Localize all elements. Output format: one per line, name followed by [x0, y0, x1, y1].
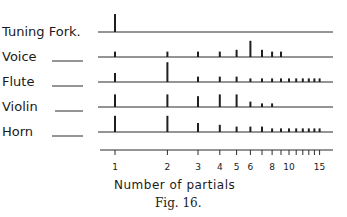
partial-bar — [166, 52, 168, 57]
x-tick-label: 2 — [165, 162, 171, 172]
x-axis-ticks — [115, 150, 320, 155]
partial-bar — [302, 78, 304, 82]
bars-flute — [114, 62, 321, 82]
partial-bar — [271, 103, 273, 107]
partial-bar — [308, 78, 310, 82]
partial-bar — [319, 78, 321, 82]
bars-horn — [114, 116, 321, 132]
row-label-voice: Voice — [2, 49, 37, 64]
row-label-violin: Violin — [2, 99, 38, 114]
partial-bar — [271, 52, 273, 57]
partial-bar — [280, 128, 282, 132]
bars-voice — [114, 41, 282, 57]
partials-diagram: Tuning Fork. Voice Flute Violin Horn 123… — [0, 0, 347, 217]
partial-bar — [197, 96, 199, 107]
row-baselines — [98, 32, 333, 132]
partial-bar — [197, 123, 199, 132]
partial-bar — [114, 116, 116, 132]
x-tick-label: 15 — [314, 162, 325, 172]
partial-bar — [166, 116, 168, 132]
partial-bar — [302, 128, 304, 132]
partial-bar — [166, 62, 168, 82]
partial-bar — [261, 78, 263, 82]
partial-bar — [249, 127, 251, 132]
partial-bar — [219, 77, 221, 82]
partial-bar — [249, 102, 251, 107]
partial-bar — [236, 50, 238, 57]
row-label-horn: Horn — [2, 124, 33, 139]
partial-bar — [249, 78, 251, 82]
partial-bar — [114, 94, 116, 107]
partial-bar — [261, 50, 263, 57]
partial-bar — [261, 127, 263, 132]
bars-violin — [114, 94, 273, 107]
partial-bar — [114, 52, 116, 57]
partial-bar — [271, 78, 273, 82]
partial-bar — [288, 128, 290, 132]
partial-bar — [271, 128, 273, 132]
partial-bar — [319, 128, 321, 132]
x-tick-label: 4 — [217, 162, 223, 172]
partial-bar — [280, 52, 282, 57]
partial-bar — [219, 94, 221, 107]
bars-tuning-fork — [114, 14, 116, 32]
partial-bar — [280, 78, 282, 82]
partial-bar — [288, 78, 290, 82]
x-tick-label: 1 — [112, 162, 118, 172]
partial-bar — [236, 94, 238, 107]
partial-bar — [295, 78, 297, 82]
partial-bar — [313, 78, 315, 82]
partial-bar — [114, 14, 116, 32]
partial-bar — [308, 128, 310, 132]
partial-bar — [236, 127, 238, 132]
partial-bar — [261, 103, 263, 107]
partial-bar — [166, 94, 168, 107]
x-tick-label: 6 — [248, 162, 254, 172]
partial-bar — [249, 41, 251, 57]
x-tick-label: 10 — [283, 162, 295, 172]
partial-bar — [114, 73, 116, 82]
partial-bar — [219, 52, 221, 57]
figure-caption: Fig. 16. — [155, 196, 202, 210]
row-label-flute: Flute — [2, 74, 34, 89]
partial-bar — [236, 77, 238, 82]
partial-bar — [313, 128, 315, 132]
row-label-tuning-fork: Tuning Fork. — [1, 24, 81, 39]
partial-bar — [197, 77, 199, 82]
partial-bar — [197, 52, 199, 57]
x-tick-label: 5 — [234, 162, 240, 172]
x-axis-tick-labels: 12345681015 — [112, 162, 325, 172]
partial-bar — [219, 125, 221, 132]
x-tick-label: 8 — [269, 162, 275, 172]
x-axis-title: Number of partials — [114, 178, 235, 192]
partial-bar — [295, 128, 297, 132]
x-tick-label: 3 — [195, 162, 201, 172]
